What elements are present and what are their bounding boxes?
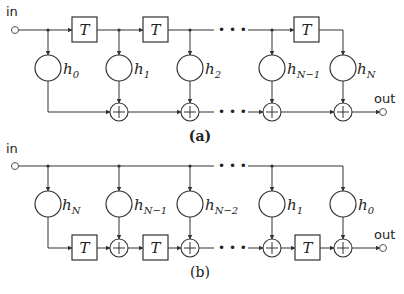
coef-label: h2 xyxy=(205,60,221,80)
coef-label: h0 xyxy=(358,196,375,216)
delay-label: T xyxy=(150,21,161,39)
adder-b1 xyxy=(110,239,128,257)
adder-b2 xyxy=(181,239,199,257)
wire xyxy=(248,166,343,191)
coef-label: hN xyxy=(62,196,82,216)
fir-filter-diagrams: in T T • • • T h0 h1 h2 hN−1 hN xyxy=(0,0,404,294)
input-label-b: in xyxy=(6,141,18,156)
coef-label: hN−1 xyxy=(134,196,167,216)
coef-label: h0 xyxy=(63,60,80,80)
ellipsis-bottom-b: • • • xyxy=(218,241,247,255)
diagram-b: in • • • hN hN−1 hN−2 h1 h0 T xyxy=(6,141,395,280)
output-label-a: out xyxy=(374,91,395,106)
adder-a4 xyxy=(334,103,352,121)
input-port-a xyxy=(12,27,19,34)
delay-label: T xyxy=(79,21,90,39)
coefficient-h1-b xyxy=(259,191,285,217)
input-port-b xyxy=(12,163,19,170)
input-label-a: in xyxy=(6,4,18,19)
coef-label: hN xyxy=(357,60,377,80)
coef-label: h1 xyxy=(287,196,303,216)
delay-label: T xyxy=(302,239,313,257)
output-port-a xyxy=(380,109,387,116)
coefficient-hN-b xyxy=(35,191,61,217)
ellipsis-top-b: • • • xyxy=(218,159,247,173)
ellipsis-top-a: • • • xyxy=(218,23,247,37)
diagram-a: in T T • • • T h0 h1 h2 hN−1 hN xyxy=(6,4,395,144)
coefficient-hN-1-a xyxy=(259,55,285,81)
coefficient-h1-a xyxy=(106,55,132,81)
caption-b: (b) xyxy=(190,264,210,280)
coef-label: h1 xyxy=(134,60,150,80)
coefficient-hN-1-b xyxy=(106,191,132,217)
output-port-b xyxy=(380,245,387,252)
delay-label: T xyxy=(301,21,312,39)
coefficient-h0-b xyxy=(330,191,356,217)
coefficient-h0-a xyxy=(35,55,61,81)
coefficient-hN-2-b xyxy=(177,191,203,217)
wire xyxy=(319,30,343,55)
adder-a2 xyxy=(181,103,199,121)
adder-a1 xyxy=(110,103,128,121)
ellipsis-bottom-a: • • • xyxy=(218,105,247,119)
adder-a3 xyxy=(263,103,281,121)
adder-b3 xyxy=(263,239,281,257)
coef-label: hN−1 xyxy=(287,60,320,80)
coefficient-h2-a xyxy=(177,55,203,81)
coefficient-hN-a xyxy=(330,55,356,81)
output-label-b: out xyxy=(374,227,395,242)
adder-b4 xyxy=(334,239,352,257)
delay-label: T xyxy=(150,239,161,257)
caption-a: (a) xyxy=(189,128,211,144)
delay-label: T xyxy=(79,239,90,257)
wire xyxy=(48,217,72,248)
coef-label: hN−2 xyxy=(205,196,238,216)
wire xyxy=(48,81,110,112)
